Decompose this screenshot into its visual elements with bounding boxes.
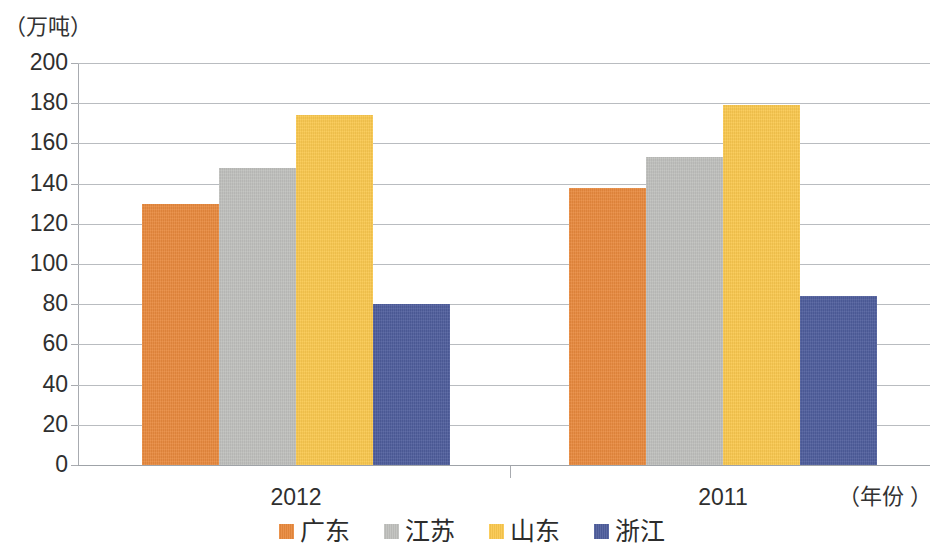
y-axis-tick-mark xyxy=(71,465,78,466)
gridline xyxy=(78,184,930,185)
y-axis-tick-label: 120 xyxy=(4,212,68,235)
x-axis-unit-label: （年份 ） xyxy=(838,484,932,510)
legend-label: 浙江 xyxy=(615,518,665,545)
y-axis-tick-mark xyxy=(71,184,78,185)
y-axis-tick-label: 20 xyxy=(4,413,68,436)
bar-广东-2012[interactable] xyxy=(142,204,219,465)
y-axis-tick-label: 60 xyxy=(4,332,68,355)
bar-山东-2012[interactable] xyxy=(296,115,373,465)
x-axis-category-label-2012: 2012 xyxy=(216,484,376,510)
y-axis-tick-label: 0 xyxy=(4,453,68,476)
bar-山东-2011[interactable] xyxy=(723,105,800,465)
legend-swatch-icon-浙江 xyxy=(594,524,609,539)
y-axis-tick-mark xyxy=(71,264,78,265)
bar-广东-2011[interactable] xyxy=(569,188,646,465)
legend-item-广东[interactable]: 广东 xyxy=(279,518,350,545)
y-axis-tick-mark xyxy=(71,385,78,386)
chart-legend: 广东江苏山东浙江 xyxy=(0,518,944,545)
y-axis-tick-mark xyxy=(71,63,78,64)
y-axis-tick-label: 160 xyxy=(4,131,68,154)
bar-浙江-2011[interactable] xyxy=(800,296,877,465)
y-axis-tick-mark xyxy=(71,304,78,305)
x-axis-category-label-2011: 2011 xyxy=(643,484,803,510)
gridline xyxy=(78,143,930,144)
y-axis-tick-labels: 200180160140120100806040200 xyxy=(0,0,68,554)
category-separator-tick xyxy=(510,466,511,478)
legend-label: 山东 xyxy=(510,518,560,545)
gridline xyxy=(78,63,930,64)
bar-浙江-2012[interactable] xyxy=(373,304,450,465)
y-axis-tick-mark xyxy=(71,224,78,225)
y-axis-tick-mark xyxy=(71,143,78,144)
legend-item-江苏[interactable]: 江苏 xyxy=(384,518,455,545)
y-axis-tick-label: 80 xyxy=(4,292,68,315)
y-axis-tick-label: 140 xyxy=(4,172,68,195)
legend-item-山东[interactable]: 山东 xyxy=(489,518,560,545)
plot-area xyxy=(78,63,930,465)
y-axis-tick-label: 180 xyxy=(4,91,68,114)
legend-swatch-icon-江苏 xyxy=(384,524,399,539)
y-axis-tick-mark xyxy=(71,425,78,426)
legend-item-浙江[interactable]: 浙江 xyxy=(594,518,665,545)
y-axis-tick-mark xyxy=(71,344,78,345)
legend-swatch-icon-广东 xyxy=(279,524,294,539)
gridline xyxy=(78,465,930,466)
y-axis-tick-label: 200 xyxy=(4,51,68,74)
y-axis-tick-label: 40 xyxy=(4,373,68,396)
bar-江苏-2012[interactable] xyxy=(219,168,296,465)
bar-江苏-2011[interactable] xyxy=(646,157,723,465)
y-axis-tick-mark xyxy=(71,103,78,104)
gridline xyxy=(78,103,930,104)
legend-swatch-icon-山东 xyxy=(489,524,504,539)
legend-label: 广东 xyxy=(300,518,350,545)
y-axis-tick-label: 100 xyxy=(4,252,68,275)
legend-label: 江苏 xyxy=(405,518,455,545)
